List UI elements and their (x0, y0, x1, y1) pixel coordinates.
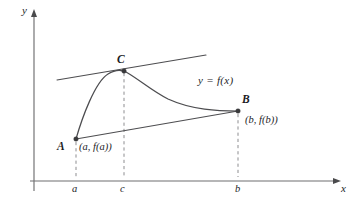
x-axis-arrow-icon (333, 178, 341, 184)
tick-label-c: c (120, 184, 125, 195)
y-axis-arrow-icon (31, 9, 37, 17)
secant-line-ab (76, 111, 238, 139)
function-label: y = f(x) (198, 75, 233, 86)
point-coord-b: (b, f(b)) (245, 115, 278, 126)
figure-graphics (0, 0, 356, 200)
x-axis-label: x (341, 183, 346, 194)
point-label-b: B (242, 94, 250, 106)
point-marker-a (74, 137, 79, 142)
figure-canvas: y x a c b A (a, f(a)) C B (b, f(b)) y = … (0, 0, 356, 200)
point-marker-c (122, 69, 127, 74)
point-label-c: C (117, 54, 125, 66)
point-marker-b (236, 109, 241, 114)
tick-label-b: b (235, 184, 240, 195)
tick-label-a: a (72, 184, 77, 195)
point-label-a: A (57, 141, 65, 153)
point-coord-a: (a, f(a)) (79, 142, 112, 153)
tangent-line-at-c (57, 55, 206, 80)
y-axis-label: y (22, 5, 27, 16)
